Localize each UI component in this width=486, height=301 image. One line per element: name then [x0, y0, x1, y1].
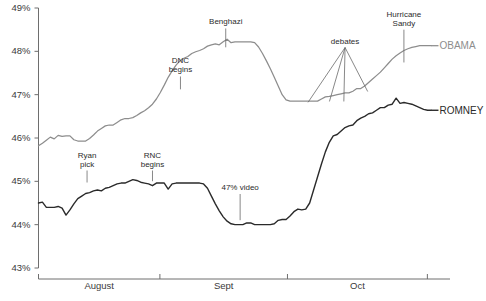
annotation-label: DNC: [172, 56, 190, 65]
annotation-leader-line: [345, 48, 368, 92]
annotation-label: begins: [141, 160, 165, 169]
y-axis-tick-label: 46%: [11, 132, 31, 143]
annotation: RNCbegins: [141, 151, 165, 182]
series-label-romney: ROMNEY: [439, 105, 483, 116]
poll-trend-chart: 43%44%45%46%47%48%49% AugustSeptOct Ryan…: [0, 0, 486, 301]
annotation-label: Sandy: [393, 19, 416, 28]
annotation-label: Hurricane: [387, 10, 422, 19]
series-line-romney: [39, 98, 432, 225]
y-axis-tick-label: 44%: [11, 219, 31, 230]
x-axis-month-label: August: [84, 280, 114, 291]
annotation-label: begins: [169, 65, 193, 74]
annotation: DNCbegins: [169, 56, 193, 89]
annotation-label: 47% video: [221, 183, 259, 192]
series-label-obama: OBAMA: [439, 40, 475, 51]
annotation-label: Ryan: [78, 151, 97, 160]
series-end-labels: OBAMAROMNEY: [431, 40, 483, 116]
annotation-label: Benghazi: [209, 17, 243, 26]
x-axis-month-label: Sept: [214, 280, 234, 291]
y-axis: 43%44%45%46%47%48%49%: [11, 2, 38, 273]
x-axis-month-label: Oct: [350, 280, 365, 291]
annotation: HurricaneSandy: [387, 10, 422, 63]
annotation-label: RNC: [144, 151, 162, 160]
annotation-label: debates: [331, 37, 359, 46]
y-axis-tick-label: 45%: [11, 175, 31, 186]
y-axis-tick-label: 47%: [11, 89, 31, 100]
annotation: Benghazi: [209, 17, 243, 47]
annotation: debates: [308, 37, 368, 103]
series-lines: [39, 39, 432, 224]
x-axis-spine: [39, 274, 451, 279]
annotation: 47% video: [221, 183, 259, 220]
chart-canvas: 43%44%45%46%47%48%49% AugustSeptOct Ryan…: [0, 0, 486, 301]
x-axis: AugustSeptOct: [39, 274, 451, 291]
y-axis-tick-label: 49%: [11, 2, 31, 13]
annotation-label: pick: [80, 160, 95, 169]
y-axis-tick-label: 43%: [11, 262, 31, 273]
annotation: Ryanpick: [78, 151, 97, 183]
series-line-obama: [39, 39, 432, 146]
y-axis-tick-label: 48%: [11, 45, 31, 56]
